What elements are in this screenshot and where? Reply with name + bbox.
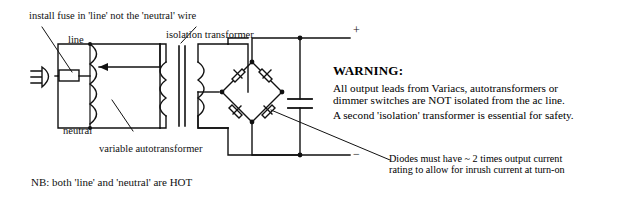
negative-terminal-label: −: [353, 148, 360, 161]
mains-bus: [58, 44, 90, 128]
autotransformer-output-wiring: [90, 44, 160, 128]
figure-canvas: install fuse in 'line' not the 'neutral'…: [0, 0, 636, 200]
isolation-transformer-label: isolation transformer: [166, 29, 254, 41]
diode-upper-left: [232, 69, 245, 82]
warning-line-3: A second 'isolation' transformer is esse…: [333, 109, 574, 121]
fuse: [59, 70, 79, 81]
nb-note-label: NB: both 'line' and 'neutral' are HOT: [31, 176, 192, 188]
wiper-arrow: [99, 63, 160, 71]
line-label: line: [68, 34, 84, 46]
neutral-label: neutral: [63, 125, 92, 137]
diode-note-line-1: Diodes must have ~ 2 times output curren…: [389, 153, 565, 164]
isolation-transformer: [160, 44, 228, 128]
variable-autotransformer-coil: [90, 44, 97, 128]
fuse-note-label: install fuse in 'line' not the 'neutral'…: [29, 10, 196, 22]
leader-autotransformer: [112, 100, 133, 131]
warning-heading: WARNING:: [333, 63, 574, 79]
bridge-rectifier: [220, 60, 285, 125]
diode-lower-left: [229, 105, 242, 118]
ac-mains-plug: [31, 67, 49, 87]
warning-block: WARNING: All output leads from Variacs, …: [333, 63, 574, 121]
warning-line-2: dimmer switches are NOT isolated from th…: [333, 94, 574, 106]
warning-line-1: All output leads from Variacs, autotrans…: [333, 82, 574, 94]
diode-lower-right: [262, 105, 275, 118]
node-negative-rail: [298, 153, 303, 158]
positive-terminal-label: +: [353, 24, 360, 37]
diode-note-block: Diodes must have ~ 2 times output curren…: [389, 153, 565, 175]
diode-note-line-2: rating to allow for inrush current at tu…: [389, 164, 565, 175]
diode-upper-right: [259, 69, 272, 82]
node-positive-rail: [298, 36, 303, 41]
secondary-to-bridge-wiring: [198, 38, 298, 155]
autotransformer-label: variable autotransformer: [99, 143, 203, 155]
filter-capacitor: [288, 38, 312, 155]
